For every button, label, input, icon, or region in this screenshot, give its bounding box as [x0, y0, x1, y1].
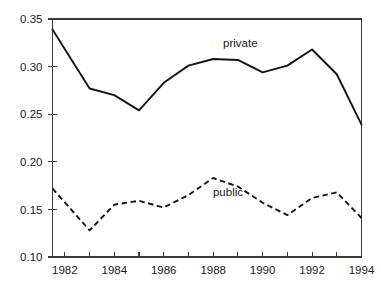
axes — [53, 19, 362, 257]
y-tick-label: 0.35 — [20, 13, 42, 25]
y-tick-label: 0.20 — [20, 156, 42, 168]
x-tick-label: 1994 — [349, 264, 375, 276]
chart-canvas: 0.100.150.200.250.300.35 198219841986198… — [0, 0, 381, 295]
series-label-public: public — [213, 186, 243, 198]
x-tick-label: 1988 — [200, 264, 226, 276]
y-tick-label: 0.10 — [20, 251, 42, 263]
y-tick-label: 0.15 — [20, 204, 42, 216]
line-chart: 0.100.150.200.250.300.35 198219841986198… — [0, 0, 381, 295]
x-tick-label: 1982 — [52, 264, 78, 276]
y-tick-label: 0.30 — [20, 61, 42, 73]
y-axis-tick-labels: 0.100.150.200.250.300.35 — [20, 13, 42, 263]
x-tick-label: 1992 — [299, 264, 325, 276]
x-axis-tick-labels: 1982198419861988199019921994 — [52, 264, 375, 276]
data-series — [53, 29, 362, 230]
series-line-private — [53, 29, 362, 124]
series-label-private: private — [223, 37, 258, 49]
x-tick-label: 1984 — [102, 264, 128, 276]
y-tick-label: 0.25 — [20, 108, 42, 120]
series-annotations: privatepublic — [213, 37, 258, 198]
series-line-public — [53, 178, 362, 230]
x-tick-label: 1986 — [151, 264, 177, 276]
x-tick-label: 1990 — [250, 264, 276, 276]
tick-marks — [48, 19, 362, 257]
